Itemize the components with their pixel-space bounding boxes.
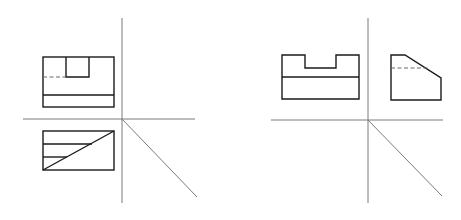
- left-top-diagonal: [43, 131, 114, 170]
- left-top-view: [43, 131, 114, 170]
- right-front-view: [282, 55, 359, 99]
- right-miter-line: [368, 120, 442, 196]
- left-figure: [23, 18, 197, 203]
- left-miter-line: [122, 119, 197, 197]
- right-figure: [271, 18, 443, 203]
- left-front-view: [43, 57, 114, 107]
- right-side-view: [391, 55, 441, 100]
- orthographic-drawing-canvas: [0, 0, 461, 220]
